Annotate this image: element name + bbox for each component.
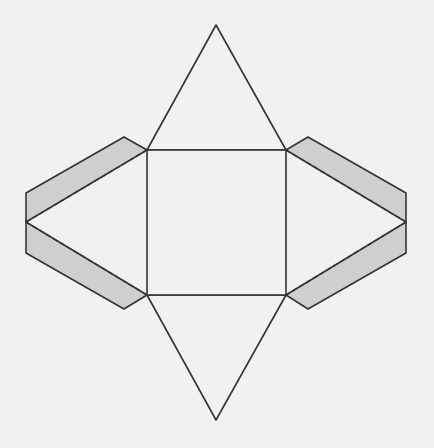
pyramid-net-diagram — [0, 0, 434, 448]
glue-tab-right-lower — [286, 222, 406, 309]
glue-tab-left-lower — [26, 222, 147, 309]
glue-tab-left-upper — [26, 137, 147, 222]
square-base-face — [147, 150, 286, 295]
triangle-face-top — [147, 25, 286, 150]
triangle-face-bottom — [147, 295, 286, 420]
glue-tab-right-upper — [286, 137, 406, 222]
